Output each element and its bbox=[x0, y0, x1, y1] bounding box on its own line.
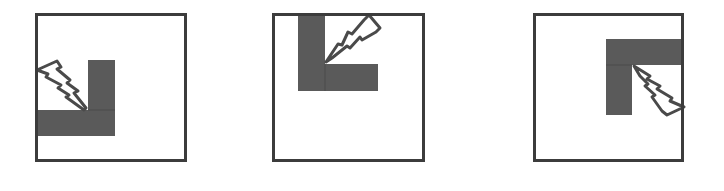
diagram-panel-2 bbox=[241, 0, 482, 191]
panel-3-figure bbox=[482, 0, 724, 191]
diagram-panel-1 bbox=[0, 0, 241, 191]
panel-2-figure bbox=[241, 0, 482, 191]
lightning-bolt-icon bbox=[634, 66, 684, 115]
lightning-bolt-icon bbox=[326, 15, 380, 62]
diagram-panel-3 bbox=[482, 0, 724, 191]
lightning-bolt-icon bbox=[37, 61, 86, 110]
panel-1-figure bbox=[0, 0, 241, 191]
